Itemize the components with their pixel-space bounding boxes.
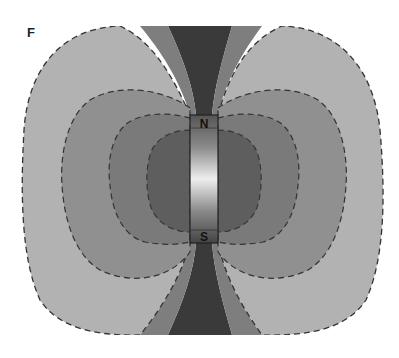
bar-magnet	[190, 115, 218, 243]
panel-label: F	[27, 25, 35, 40]
magnetic-field-diagram: N S	[0, 0, 399, 358]
north-pole-label: N	[200, 117, 209, 131]
south-pole-label: S	[200, 230, 208, 244]
